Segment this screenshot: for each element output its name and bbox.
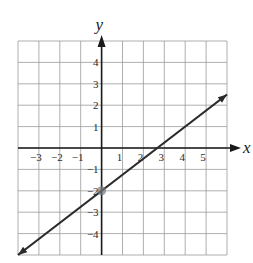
y-tick-label: 1 <box>93 121 99 133</box>
y-tick-label: −1 <box>87 163 99 175</box>
x-axis-arrow-icon <box>230 144 241 152</box>
coordinate-plane: −3−2−112345−4−3−2−11234 x y <box>0 0 253 263</box>
x-tick-label: 4 <box>179 151 185 163</box>
intercept-point <box>97 186 106 195</box>
y-tick-label: 3 <box>93 78 99 90</box>
y-tick-label: 2 <box>93 99 99 111</box>
axes <box>18 35 241 255</box>
x-tick-label: −2 <box>51 151 63 163</box>
x-tick-label: −3 <box>30 151 42 163</box>
x-tick-label: 3 <box>159 151 165 163</box>
y-axis-label: y <box>94 15 104 34</box>
x-tick-label: 1 <box>117 151 123 163</box>
x-axis-label: x <box>242 138 251 157</box>
x-tick-label: 5 <box>200 151 206 163</box>
y-tick-label: −3 <box>87 206 99 218</box>
y-tick-label: 4 <box>93 56 99 68</box>
y-tick-label: −4 <box>87 228 99 240</box>
x-tick-label: −1 <box>72 151 84 163</box>
